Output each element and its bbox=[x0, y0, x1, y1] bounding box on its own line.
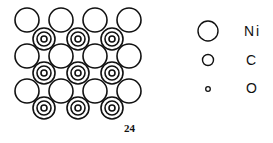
o-atom-icon bbox=[75, 105, 81, 111]
o-atom-icon bbox=[41, 105, 47, 111]
o-atom-icon bbox=[109, 105, 115, 111]
ni-atom-icon bbox=[83, 79, 107, 103]
o-atom-icon bbox=[75, 36, 81, 42]
legend-ni-icon bbox=[198, 21, 218, 41]
ni-atom-icon bbox=[117, 8, 141, 32]
o-atom-icon bbox=[109, 36, 115, 42]
legend-o-icon bbox=[206, 87, 211, 92]
o-atom-icon bbox=[109, 70, 115, 76]
legend-label-o: O bbox=[246, 80, 259, 96]
ni-atom-icon bbox=[15, 44, 39, 68]
ni-atom-icon bbox=[83, 8, 107, 32]
o-atom-icon bbox=[41, 70, 47, 76]
ni-atom-icon bbox=[15, 8, 39, 32]
ni-atom-icon bbox=[83, 44, 107, 68]
legend-label-c: C bbox=[246, 52, 258, 68]
o-atom-icon bbox=[41, 36, 47, 42]
ni-atom-icon bbox=[49, 8, 73, 32]
ni-atom-icon bbox=[117, 79, 141, 103]
o-atom-icon bbox=[75, 70, 81, 76]
ni-atom-icon bbox=[15, 79, 39, 103]
ni-atom-icon bbox=[49, 79, 73, 103]
ni-atom-icon bbox=[117, 44, 141, 68]
legend-label-ni: Ni bbox=[244, 23, 261, 39]
ni-atom-icon bbox=[49, 44, 73, 68]
page-number: 24 bbox=[124, 122, 135, 134]
ni-co-lattice-diagram bbox=[0, 0, 273, 143]
legend-c-icon bbox=[203, 55, 214, 66]
